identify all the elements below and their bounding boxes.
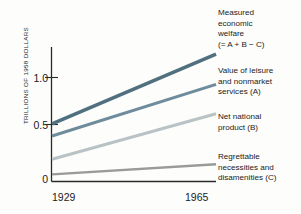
series-line-3: [52, 114, 216, 160]
data-series-group: [52, 54, 216, 174]
chart-figure: TRILLIONS OF 1958 DOLLARS 1.0 0.5 0 1929…: [0, 0, 301, 214]
legend-text-line: disamenities (C): [218, 173, 301, 184]
legend-text-line: Measured: [218, 8, 301, 19]
legend-text-line: welfare: [218, 29, 301, 40]
legend-item-net-national-product: Net national product (B): [218, 112, 301, 133]
legend-text-line: Net national: [218, 112, 301, 123]
series-line-1: [52, 54, 216, 124]
series-line-2: [52, 84, 216, 136]
legend-text-line: (= A + B − C): [218, 40, 301, 51]
legend-item-measured-economic-welfare: Measured economic welfare (= A + B − C): [218, 8, 301, 51]
legend-item-value-of-leisure: Value of leisure and nonmarket services …: [218, 66, 301, 98]
legend-text-line: Regrettable: [218, 152, 301, 163]
legend-text-line: Value of leisure: [218, 66, 301, 77]
legend-text-line: product (B): [218, 123, 301, 134]
legend-text-line: and nonmarket: [218, 77, 301, 88]
legend-text-line: economic: [218, 19, 301, 30]
legend-text-line: necessities and: [218, 163, 301, 174]
legend-text-line: services (A): [218, 87, 301, 98]
legend-item-regrettable-necessities: Regrettable necessities and disamenities…: [218, 152, 301, 184]
series-line-4: [52, 164, 216, 174]
